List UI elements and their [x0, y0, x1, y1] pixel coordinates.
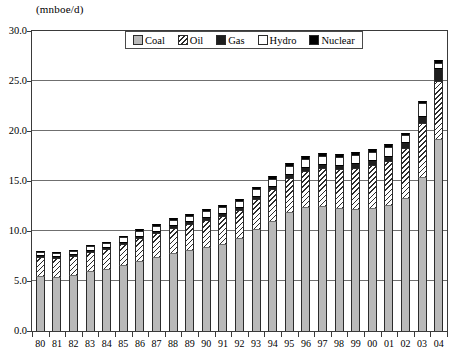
- bar-segment-hydro: [152, 226, 161, 231]
- bar-segment-hydro: [169, 220, 178, 225]
- bar-column: [218, 31, 227, 331]
- bar-segment-coal: [169, 253, 178, 331]
- bar-segment-oil: [102, 249, 111, 269]
- bar-segment-coal: [335, 208, 344, 331]
- bar-segment-nuclear: [218, 205, 227, 207]
- bar-segment-coal: [301, 207, 310, 331]
- bar-segment-hydro: [418, 103, 427, 116]
- bar-segment-oil: [252, 199, 261, 229]
- bar-column: [252, 31, 261, 331]
- bar-segment-coal: [69, 275, 78, 331]
- legend-swatch-gas-icon: [216, 35, 226, 45]
- bar-column: [102, 31, 111, 331]
- bar-segment-gas: [384, 156, 393, 161]
- legend-item-gas: Gas: [216, 35, 244, 46]
- bar-segment-oil: [218, 216, 227, 244]
- bar-segment-nuclear: [169, 218, 178, 220]
- bar-segment-oil: [202, 220, 211, 247]
- bar-segment-oil: [135, 238, 144, 261]
- x-axis-tick-label: 93: [247, 338, 265, 349]
- bar-segment-nuclear: [202, 209, 211, 211]
- bar-segment-oil: [301, 171, 310, 207]
- bar-segment-hydro: [86, 246, 95, 250]
- x-axis-tick-mark: [215, 332, 216, 337]
- bar-column: [268, 31, 277, 331]
- x-axis-tick-label: 86: [131, 338, 149, 349]
- bar-segment-gas: [368, 160, 377, 165]
- bar-segment-coal: [135, 261, 144, 331]
- bar-segment-coal: [401, 198, 410, 331]
- x-axis-tick-label: 91: [214, 338, 232, 349]
- y-axis-tick-label: 20.0: [0, 125, 27, 136]
- bar-column: [434, 31, 443, 331]
- legend-item-hydro: Hydro: [258, 35, 297, 46]
- bar-segment-hydro: [285, 166, 294, 174]
- bar-column: [185, 31, 194, 331]
- x-axis-tick-mark: [148, 332, 149, 337]
- x-axis-tick-label: 01: [380, 338, 398, 349]
- y-axis-ticks: 0.05.010.015.020.025.030.0: [0, 0, 31, 356]
- bar-segment-gas: [36, 255, 45, 257]
- x-axis-tick-label: 92: [231, 338, 249, 349]
- x-axis-tick-label: 82: [65, 338, 83, 349]
- bar-segment-coal: [119, 265, 128, 331]
- bar-column: [335, 31, 344, 331]
- stacked-bar-chart: (mnboe/d) 0.05.010.015.020.025.030.0 808…: [0, 0, 452, 356]
- legend-item-nuclear: Nuclear: [309, 35, 354, 46]
- bar-segment-nuclear: [252, 187, 261, 189]
- x-axis-tick-label: 90: [197, 338, 215, 349]
- bar-segment-nuclear: [268, 176, 277, 179]
- bar-segment-nuclear: [102, 242, 111, 243]
- bar-segment-coal: [368, 208, 377, 331]
- bar-segment-hydro: [36, 252, 45, 255]
- bar-segment-oil: [268, 189, 277, 221]
- bar-segment-gas: [268, 186, 277, 189]
- bar-segment-coal: [384, 205, 393, 331]
- bar-segment-oil: [69, 256, 78, 275]
- bar-column: [202, 31, 211, 331]
- x-axis-tick-mark: [397, 332, 398, 337]
- bar-segment-nuclear: [418, 101, 427, 103]
- y-axis-tick-label: 0.0: [0, 325, 27, 336]
- bar-segment-coal: [285, 212, 294, 331]
- x-axis-tick-mark: [82, 332, 83, 337]
- x-axis-tick-mark: [331, 332, 332, 337]
- bar-column: [169, 31, 178, 331]
- bar-segment-hydro: [235, 201, 244, 207]
- legend-label: Nuclear: [321, 35, 354, 46]
- x-axis-tick-mark: [181, 332, 182, 337]
- bar-segment-gas: [152, 231, 161, 233]
- bar-segment-oil: [52, 258, 61, 277]
- legend-label: Hydro: [270, 35, 297, 46]
- bar-segment-nuclear: [185, 214, 194, 216]
- bars-layer: [32, 31, 447, 331]
- bar-segment-oil: [401, 148, 410, 198]
- bar-segment-hydro: [268, 179, 277, 186]
- bar-segment-coal: [418, 177, 427, 331]
- bar-segment-oil: [152, 233, 161, 257]
- bar-segment-hydro: [102, 243, 111, 247]
- bar-segment-gas: [135, 236, 144, 238]
- bar-segment-coal: [52, 277, 61, 331]
- bar-column: [36, 31, 45, 331]
- bar-segment-hydro: [335, 157, 344, 165]
- x-axis-tick-label: 99: [347, 338, 365, 349]
- x-axis-tick-label: 95: [280, 338, 298, 349]
- bar-segment-coal: [434, 139, 443, 331]
- x-axis-tick-mark: [298, 332, 299, 337]
- x-axis-tick-label: 85: [114, 338, 132, 349]
- bar-segment-oil: [434, 81, 443, 139]
- bar-segment-nuclear: [52, 252, 61, 253]
- bar-segment-hydro: [401, 135, 410, 142]
- legend-swatch-nuclear-icon: [309, 35, 319, 45]
- bar-segment-hydro: [52, 253, 61, 256]
- legend-label: Coal: [145, 35, 165, 46]
- bar-segment-coal: [218, 244, 227, 331]
- bar-column: [285, 31, 294, 331]
- bar-column: [401, 31, 410, 331]
- legend-swatch-coal-icon: [133, 35, 143, 45]
- bar-column: [301, 31, 310, 331]
- bar-segment-gas: [418, 116, 427, 123]
- legend-swatch-hydro-icon: [258, 35, 268, 45]
- bar-segment-oil: [384, 161, 393, 205]
